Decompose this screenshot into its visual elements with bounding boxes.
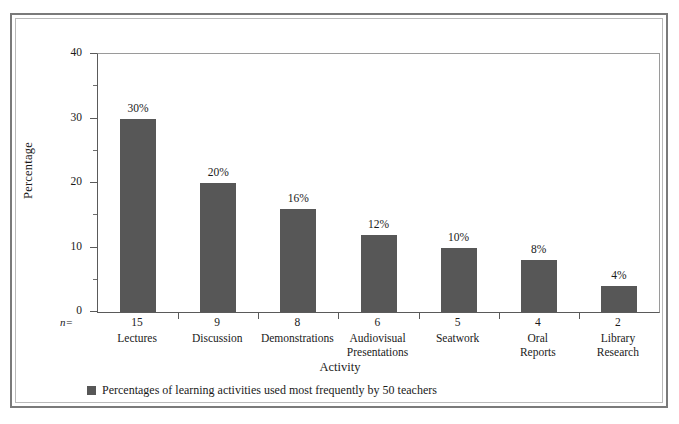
bar (361, 235, 397, 312)
y-axis-tick-label: 40 (56, 47, 82, 59)
x-axis-category-n: 15 (97, 315, 177, 329)
x-axis-category: 4OralReports (498, 315, 578, 359)
plot-area: 30%20%16%12%10%8%4% (97, 53, 660, 313)
figure-frame: Percentage 010203040 30%20%16%12%10%8%4%… (10, 13, 668, 408)
x-axis-category: 8Demonstrations (257, 315, 337, 346)
x-axis-category-n: 2 (578, 315, 658, 329)
bar-value-label: 20% (188, 166, 248, 178)
bar (601, 286, 637, 312)
x-axis-category-label: Research (578, 346, 658, 360)
legend-label: Percentages of learning activities used … (102, 384, 437, 397)
n-equals-label: n= (60, 315, 73, 329)
x-axis-category: 6AudiovisualPresentations (337, 315, 417, 359)
x-axis-category-label: Reports (498, 346, 578, 360)
x-axis-category-label: Oral (498, 332, 578, 346)
x-axis-category-n: 8 (257, 315, 337, 329)
y-axis-major-tick (90, 53, 97, 54)
bar-value-label: 30% (108, 102, 168, 114)
x-axis-category-label: Lectures (97, 332, 177, 346)
bar-value-label: 16% (268, 192, 328, 204)
x-axis-category: 9Discussion (177, 315, 257, 346)
y-axis-major-tick (90, 247, 97, 248)
bar-value-label: 4% (589, 269, 649, 281)
x-axis-category-label: Seatwork (418, 332, 498, 346)
y-axis-tick-label: 10 (56, 241, 82, 253)
bar-value-label: 10% (429, 231, 489, 243)
bar (280, 209, 316, 312)
bar-value-label: 12% (349, 218, 409, 230)
chart-legend: Percentages of learning activities used … (87, 384, 437, 397)
x-axis-category-label: Audiovisual (337, 332, 417, 346)
x-axis-title-text: Activity (320, 360, 361, 375)
x-axis-category-n: 4 (498, 315, 578, 329)
y-axis-tick-label: 20 (56, 176, 82, 188)
y-axis-title: Percentage (21, 111, 36, 231)
legend-swatch-icon (87, 386, 96, 395)
x-axis-category-n: 5 (418, 315, 498, 329)
x-axis-category-label: Discussion (177, 332, 257, 346)
x-axis-category: 5Seatwork (418, 315, 498, 346)
bar-value-label: 8% (509, 243, 569, 255)
x-axis-category-label: Demonstrations (257, 332, 337, 346)
x-axis-category-label: Presentations (337, 346, 417, 360)
x-axis-category-n: 9 (177, 315, 257, 329)
x-axis-category: 15Lectures (97, 315, 177, 346)
y-axis-major-tick (90, 182, 97, 183)
bar (200, 183, 236, 312)
y-axis-tick-label: 30 (56, 112, 82, 124)
bar (521, 260, 557, 312)
x-axis-category-label: Library (578, 332, 658, 346)
x-axis-title: Activity (12, 360, 670, 375)
y-axis-major-tick (90, 311, 97, 312)
y-axis-major-tick (90, 118, 97, 119)
x-axis-category: 2LibraryResearch (578, 315, 658, 359)
x-axis-category-n: 6 (337, 315, 417, 329)
bar (441, 248, 477, 313)
bar (120, 119, 156, 313)
